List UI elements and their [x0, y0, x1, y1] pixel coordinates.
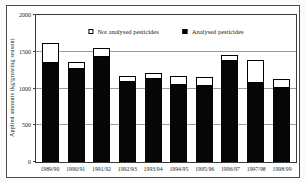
- segment-analysed: [221, 61, 238, 162]
- y-tick-label-500: 500: [22, 122, 31, 128]
- segment-not-analysed: [42, 43, 59, 63]
- x-tick-label-1997-98: 1997/98: [243, 166, 269, 172]
- y-axis-title: Applied amounts (kg/growing season): [9, 14, 15, 161]
- x-tick-label-1995-96: 1995/96: [192, 166, 218, 172]
- stacked-bar-1994-95: [170, 76, 187, 162]
- stacked-bar-1996-97: [221, 55, 238, 162]
- black-square-icon: [183, 29, 188, 34]
- stacked-bar-1997-98: [247, 60, 264, 162]
- segment-not-analysed: [68, 62, 85, 69]
- x-tick-label-1994-95: 1994/95: [166, 166, 192, 172]
- x-tick-label-1993-94: 1993/94: [140, 166, 166, 172]
- stacked-bar-1998-99: [273, 79, 290, 162]
- bar-slot-1998-99: [268, 79, 294, 162]
- segment-not-analysed: [196, 77, 213, 86]
- bar-slot-1992-93: [115, 76, 141, 162]
- legend-item-analysed: Analysed pesticides: [183, 28, 244, 35]
- segment-not-analysed: [247, 60, 264, 83]
- stacked-bar-1992-93: [119, 76, 136, 162]
- x-tick-label-1996-97: 1996/97: [218, 166, 244, 172]
- bars-row: [36, 15, 296, 162]
- bar-slot-1989-90: [38, 43, 64, 162]
- bar-slot-1990-91: [64, 62, 90, 162]
- x-tick-label-1991-92: 1991/92: [89, 166, 115, 172]
- segment-analysed: [145, 79, 162, 162]
- stacked-bar-1995-96: [196, 77, 213, 162]
- segment-analysed: [170, 85, 187, 162]
- bar-slot-1996-97: [217, 55, 243, 162]
- stacked-bar-1991-92: [93, 48, 110, 162]
- bar-slot-1994-95: [166, 76, 192, 162]
- segment-analysed: [273, 88, 290, 162]
- bar-slot-1997-98: [243, 60, 269, 162]
- y-tick-label-2000: 2000: [19, 12, 31, 18]
- x-tick-label-1998-99: 1998/99: [269, 166, 295, 172]
- plot-area: 0500100015002000 Not analysed pesticides…: [35, 14, 297, 163]
- y-tick-label-0: 0: [28, 159, 31, 165]
- legend-label-not-analysed: Not analysed pesticides: [97, 28, 158, 35]
- segment-not-analysed: [170, 76, 187, 85]
- bar-slot-1991-92: [89, 48, 115, 162]
- segment-analysed: [196, 86, 213, 162]
- stacked-bar-1990-91: [68, 62, 85, 162]
- segment-not-analysed: [273, 79, 290, 89]
- y-tick-label-1500: 1500: [19, 49, 31, 55]
- legend: Not analysed pesticides Analysed pestici…: [88, 28, 243, 35]
- segment-analysed: [93, 57, 110, 163]
- segment-analysed: [119, 82, 136, 162]
- x-tick-label-1990-91: 1990/91: [63, 166, 89, 172]
- x-tick-label-1989-90: 1989/90: [37, 166, 63, 172]
- bar-slot-1995-96: [192, 77, 218, 162]
- x-tick-label-1992-93: 1992/93: [114, 166, 140, 172]
- y-tick-label-1000: 1000: [19, 86, 31, 92]
- stacked-bar-1989-90: [42, 43, 59, 162]
- segment-analysed: [247, 83, 264, 162]
- white-square-icon: [88, 29, 93, 34]
- segment-analysed: [42, 63, 59, 162]
- chart-frame: Applied amounts (kg/growing season) 0500…: [6, 5, 300, 178]
- stacked-bar-1993-94: [145, 73, 162, 162]
- segment-analysed: [68, 69, 85, 162]
- x-axis-labels: 1989/901990/911991/921992/931993/941994/…: [35, 166, 297, 172]
- bar-slot-1993-94: [140, 73, 166, 162]
- legend-label-analysed: Analysed pesticides: [192, 28, 244, 35]
- segment-not-analysed: [93, 48, 110, 56]
- figure-page: Applied amounts (kg/growing season) 0500…: [0, 0, 305, 181]
- legend-item-not-analysed: Not analysed pesticides: [88, 28, 158, 35]
